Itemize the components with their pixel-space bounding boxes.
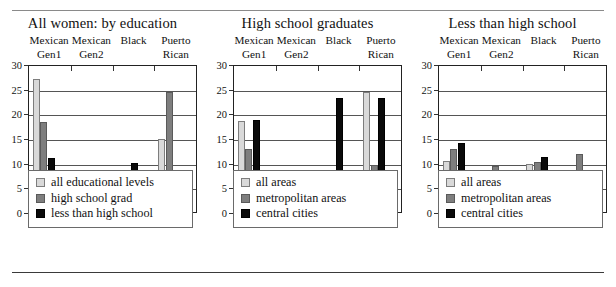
legend-label: high school grad xyxy=(51,191,132,206)
legend-item: less than high school xyxy=(36,206,185,222)
chart-panel-2: High school graduatesMexicanGen1MexicanG… xyxy=(205,14,410,213)
y-axis-tick-label: 10 xyxy=(12,158,23,169)
legend-item: all educational levels xyxy=(36,175,185,191)
group-label-line2: Rican xyxy=(556,47,616,61)
y-axis-tick-label: 30 xyxy=(422,60,433,71)
y-axis-tick-label: 5 xyxy=(17,183,22,194)
legend-item: metropolitan areas xyxy=(241,191,390,207)
group-label-4: PuertoRican xyxy=(556,33,616,61)
legend-swatch-icon xyxy=(241,178,250,187)
bottom-divider-rule xyxy=(12,272,604,273)
legend-swatch-icon xyxy=(446,178,455,187)
legend-label: metropolitan areas xyxy=(461,191,551,206)
group-label-line2: Rican xyxy=(351,47,411,61)
group-label-row: MexicanGen1MexicanGen2BlackPuertoRican xyxy=(0,33,205,65)
panel-title: All women: by education xyxy=(0,14,205,33)
chart-panel-1: All women: by educationMexicanGen1Mexica… xyxy=(0,14,205,213)
y-axis-tick-label: 30 xyxy=(12,60,23,71)
group-label-line1: Puerto xyxy=(351,33,411,47)
top-divider-rule xyxy=(12,10,604,11)
legend-item: central cities xyxy=(446,206,595,222)
y-axis-tick-label: 20 xyxy=(217,109,228,120)
group-label-line1: Puerto xyxy=(146,33,206,47)
legend-swatch-icon xyxy=(241,209,250,218)
legend-label: all areas xyxy=(461,175,501,190)
legend: all areasmetropolitan areascentral citie… xyxy=(233,170,398,228)
y-axis-tick-label: 20 xyxy=(12,109,23,120)
legend-label: central cities xyxy=(461,206,523,221)
legend-label: metropolitan areas xyxy=(256,191,346,206)
group-label-4: PuertoRican xyxy=(146,33,206,61)
y-axis: 051015202530 xyxy=(410,65,434,213)
legend: all areasmetropolitan areascentral citie… xyxy=(438,170,603,228)
y-axis-tick-label: 15 xyxy=(12,134,23,145)
legend-item: all areas xyxy=(241,175,390,191)
group-label-line2: Rican xyxy=(146,47,206,61)
group-label-line2: Gen2 xyxy=(266,47,326,61)
legend-label: central cities xyxy=(256,206,318,221)
y-axis-tick-label: 0 xyxy=(222,208,227,219)
chart-panel-container: All women: by educationMexicanGen1Mexica… xyxy=(0,14,616,213)
y-axis-tick-label: 5 xyxy=(427,183,432,194)
y-axis-tick-label: 0 xyxy=(17,208,22,219)
legend-swatch-icon xyxy=(241,194,250,203)
y-axis-tick-label: 0 xyxy=(427,208,432,219)
legend: all educational levelshigh school gradle… xyxy=(28,170,193,228)
legend-swatch-icon xyxy=(446,209,455,218)
group-label-line1: Puerto xyxy=(556,33,616,47)
legend-item: high school grad xyxy=(36,191,185,207)
y-axis-tick-label: 25 xyxy=(422,84,433,95)
group-label-row: MexicanGen1MexicanGen2BlackPuertoRican xyxy=(410,33,615,65)
y-axis-tick-label: 15 xyxy=(217,134,228,145)
legend-swatch-icon xyxy=(36,194,45,203)
chart-panel-3: Less than high schoolMexicanGen1MexicanG… xyxy=(410,14,615,213)
legend-item: all areas xyxy=(446,175,595,191)
y-axis: 051015202530 xyxy=(205,65,229,213)
y-axis-tick-label: 10 xyxy=(217,158,228,169)
y-axis-tick-label: 10 xyxy=(422,158,433,169)
panel-title: Less than high school xyxy=(410,14,615,33)
group-label-line2: Gen2 xyxy=(471,47,531,61)
panel-title: High school graduates xyxy=(205,14,410,33)
y-axis-tick-label: 25 xyxy=(217,84,228,95)
y-axis-tick-label: 25 xyxy=(12,84,23,95)
legend-swatch-icon xyxy=(36,178,45,187)
y-axis-tick-label: 15 xyxy=(422,134,433,145)
legend-item: central cities xyxy=(241,206,390,222)
legend-label: all educational levels xyxy=(51,175,154,190)
legend-swatch-icon xyxy=(36,209,45,218)
legend-swatch-icon xyxy=(446,194,455,203)
y-axis: 051015202530 xyxy=(0,65,24,213)
legend-label: less than high school xyxy=(51,206,153,221)
group-label-line2: Gen2 xyxy=(61,47,121,61)
legend-item: metropolitan areas xyxy=(446,191,595,207)
legend-label: all areas xyxy=(256,175,296,190)
y-axis-tick-label: 5 xyxy=(222,183,227,194)
y-axis-tick-label: 30 xyxy=(217,60,228,71)
group-label-row: MexicanGen1MexicanGen2BlackPuertoRican xyxy=(205,33,410,65)
group-label-4: PuertoRican xyxy=(351,33,411,61)
y-axis-tick-label: 20 xyxy=(422,109,433,120)
